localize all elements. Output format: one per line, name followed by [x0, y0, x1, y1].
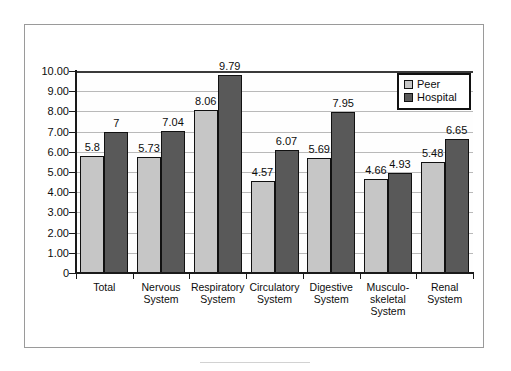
bar-peer [364, 179, 388, 273]
bar-value-label: 9.79 [212, 61, 248, 72]
bar-value-label: 7.95 [325, 98, 361, 109]
x-axis-tick-mark [189, 273, 190, 279]
x-axis-category-label: RespiratorySystem [185, 281, 250, 305]
y-axis-line [75, 70, 77, 274]
x-axis-category-label: CirculatorySystem [242, 281, 307, 305]
x-axis-category-label: Total [72, 281, 137, 293]
x-axis-category-label: RenalSystem [412, 281, 477, 305]
bar-value-label: 4.93 [382, 159, 418, 170]
bar-value-label: 4.57 [245, 167, 281, 178]
bar-peer [251, 181, 275, 273]
gridline [76, 132, 473, 133]
bar-peer [194, 110, 218, 273]
y-axis-tick-label: 8.00 [23, 106, 69, 117]
bar-peer [307, 158, 331, 273]
y-axis-tick-label: 3.00 [23, 207, 69, 218]
bar-value-label: 6.65 [439, 125, 475, 136]
bar-value-label: 8.06 [188, 96, 224, 107]
y-axis-tick-label: 6.00 [23, 147, 69, 158]
bar-value-label: 5.48 [415, 148, 451, 159]
bar-value-label: 7.04 [155, 117, 191, 128]
bar-peer [137, 157, 161, 273]
bar-hospital [331, 112, 355, 273]
bar-value-label: 6.07 [269, 136, 305, 147]
caption-rule [200, 362, 310, 363]
bar-value-label: 5.69 [301, 144, 337, 155]
x-axis-tick-mark [133, 273, 134, 279]
x-axis-category-label: Musculo-skeletalSystem [356, 281, 421, 317]
y-axis-tick-label: 10.00 [23, 66, 69, 77]
y-axis-tick-label: 7.00 [23, 127, 69, 138]
x-axis-tick-mark [473, 273, 474, 279]
y-axis-tick-labels: 10.009.008.007.006.005.004.003.002.001.0… [25, 25, 69, 347]
legend-label: Peer [417, 79, 440, 90]
grouped-bar-chart: 10.009.008.007.006.005.004.003.002.001.0… [25, 25, 483, 347]
legend-swatch-hospital [404, 93, 413, 102]
y-axis-tick-label: 9.00 [23, 86, 69, 97]
bar-peer [421, 162, 445, 273]
x-axis-line [75, 272, 474, 274]
x-axis-tick-mark [303, 273, 304, 279]
x-axis-category-label: NervousSystem [129, 281, 194, 305]
legend-swatch-peer [404, 80, 413, 89]
bar-value-label: 7 [98, 118, 134, 129]
bar-peer [80, 156, 104, 273]
gridline [76, 111, 473, 112]
legend-item-peer: Peer [404, 78, 464, 91]
legend-item-hospital: Hospital [404, 91, 464, 104]
y-axis-tick-label: 2.00 [23, 228, 69, 239]
x-axis-category-label: DigestiveSystem [299, 281, 364, 305]
bar-value-label: 5.8 [74, 142, 110, 153]
y-axis-tick-label: 5.00 [23, 167, 69, 178]
y-axis-tick-label: 4.00 [23, 187, 69, 198]
x-axis-tick-mark [416, 273, 417, 279]
figure-frame: 10.009.008.007.006.005.004.003.002.001.0… [24, 24, 484, 348]
bar-value-label: 5.73 [131, 143, 167, 154]
legend-label: Hospital [417, 92, 457, 103]
bar-hospital [388, 173, 412, 273]
x-axis-tick-mark [76, 273, 77, 279]
x-axis-tick-mark [360, 273, 361, 279]
x-axis-tick-mark [246, 273, 247, 279]
chart-legend: PeerHospital [397, 73, 471, 110]
y-axis-tick-label: 1.00 [23, 248, 69, 259]
y-axis-tick-label: 0 [23, 268, 69, 279]
